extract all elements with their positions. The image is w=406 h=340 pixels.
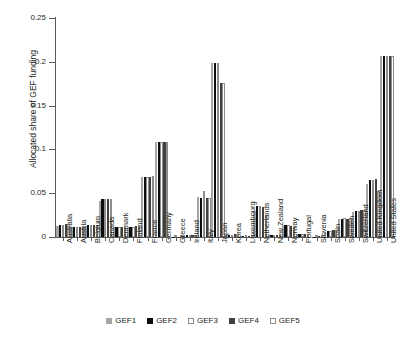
x-tick-label: Belgium (94, 216, 102, 243)
y-tick-label: 0.05 (30, 189, 46, 197)
x-tick-label: Korea (235, 223, 243, 243)
x-tick-mark (246, 237, 247, 241)
x-tick-label: Austria (80, 220, 88, 243)
legend-swatch (229, 318, 235, 324)
x-tick-label: France (151, 220, 159, 243)
legend-label: GEF2 (156, 316, 177, 325)
y-tick-label: 0.25 (30, 14, 46, 22)
x-tick-mark (77, 237, 78, 241)
x-tick-label: Finland (136, 218, 144, 243)
legend-swatch (106, 318, 112, 324)
x-tick-label: Netherlands (263, 203, 271, 243)
x-tick-mark (331, 237, 332, 241)
x-tick-label: Spain (334, 224, 342, 243)
legend-label: GEF1 (115, 316, 136, 325)
bar-group (126, 18, 140, 237)
x-tick-label: Italy (207, 229, 215, 243)
legend-item[interactable]: GEF2 (147, 316, 177, 325)
legend-label: GEF5 (279, 316, 300, 325)
bar-group (112, 18, 126, 237)
legend-swatch (270, 318, 276, 324)
bar-group (169, 18, 183, 237)
legend-swatch (147, 318, 153, 324)
bar-group (225, 18, 239, 237)
legend-item[interactable]: GEF3 (188, 316, 218, 325)
x-tick-mark (387, 237, 388, 241)
x-tick-mark (162, 237, 163, 241)
bar-group (197, 18, 211, 237)
legend-item[interactable]: GEF5 (270, 316, 300, 325)
plot-area (56, 18, 394, 237)
bar-group (141, 18, 155, 237)
bar-group (338, 18, 352, 237)
x-tick-label: Luxembourg (249, 201, 257, 243)
legend-label: GEF4 (238, 316, 259, 325)
x-tick-label: Japan (221, 223, 229, 243)
x-tick-label: Greece (179, 218, 187, 243)
bar-group (310, 18, 324, 237)
x-tick-label: United Kingdom (376, 190, 384, 243)
x-tick-mark (63, 237, 64, 241)
y-tick-mark (49, 106, 55, 107)
x-tick-mark (317, 237, 318, 241)
y-tick-mark (49, 193, 55, 194)
legend-item[interactable]: GEF4 (229, 316, 259, 325)
bar-group (155, 18, 169, 237)
x-tick-label: New Zealand (277, 199, 285, 243)
x-tick-label: Canada (108, 217, 116, 243)
x-tick-mark (176, 237, 177, 241)
x-tick-label: Norway (291, 218, 299, 243)
bar-group (84, 18, 98, 237)
bar-group (183, 18, 197, 237)
legend-swatch (188, 318, 194, 324)
bar-group (324, 18, 338, 237)
y-tick-label: 0.15 (30, 102, 46, 110)
x-tick-label: Switzerland (362, 204, 370, 243)
y-tick-mark (49, 18, 55, 19)
x-tick-label: Ireland (193, 220, 201, 243)
legend-label: GEF3 (197, 316, 218, 325)
y-tick-label: 0 (42, 233, 46, 241)
x-tick-label: Denmark (122, 213, 130, 243)
chart-legend: GEF1GEF2GEF3GEF4GEF5 (0, 316, 406, 325)
x-tick-mark (359, 237, 360, 241)
y-tick-mark (49, 149, 55, 150)
x-tick-mark (345, 237, 346, 241)
legend-item[interactable]: GEF1 (106, 316, 136, 325)
x-tick-mark (218, 237, 219, 241)
x-tick-label: Germany (165, 212, 173, 243)
bar-group (56, 18, 70, 237)
y-tick-mark (49, 62, 55, 63)
x-tick-mark (373, 237, 374, 241)
y-tick-label: 0.1 (35, 145, 46, 153)
x-tick-mark (148, 237, 149, 241)
x-tick-label: United States (390, 198, 398, 243)
y-tick-label: 0.2 (35, 58, 46, 66)
bar-group (70, 18, 84, 237)
x-tick-mark (232, 237, 233, 241)
x-tick-label: Slovenia (320, 214, 328, 243)
x-tick-mark (204, 237, 205, 241)
y-tick-mark (49, 237, 55, 238)
gef-funding-bar-chart: Allocated share of GEF funding 00.050.10… (0, 0, 406, 340)
x-tick-label: Australia (66, 214, 74, 243)
x-tick-mark (190, 237, 191, 241)
bar-group (295, 18, 309, 237)
bar-group (211, 18, 225, 237)
bar-group (98, 18, 112, 237)
x-tick-label: Sweden (348, 216, 356, 243)
x-tick-label: Portugal (305, 215, 313, 243)
